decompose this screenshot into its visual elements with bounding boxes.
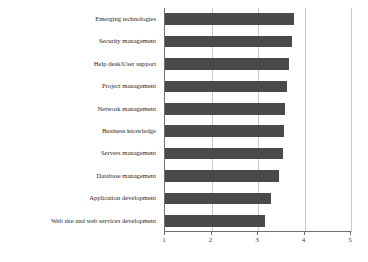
gridline <box>351 8 352 232</box>
category-label: Servers management <box>0 142 160 164</box>
bar <box>165 36 292 48</box>
x-axis-tick <box>304 231 305 235</box>
x-axis-tick-label: 5 <box>340 236 360 245</box>
bar <box>165 103 285 115</box>
x-axis-tick <box>211 231 212 235</box>
bar <box>165 13 294 25</box>
bar <box>165 148 283 160</box>
category-label: Security management <box>0 30 160 52</box>
x-axis-tick-label: 2 <box>201 236 221 245</box>
bar-chart: Emerging technologiesSecurity management… <box>0 0 368 262</box>
x-axis-tick <box>164 231 165 235</box>
category-label-column: Emerging technologiesSecurity management… <box>0 8 164 232</box>
plot-area <box>164 8 350 232</box>
x-axis-tick-label: 1 <box>154 236 174 245</box>
x-axis-tick-label: 3 <box>247 236 267 245</box>
x-axis-tick <box>350 231 351 235</box>
gridline <box>305 8 306 232</box>
x-axis-tick-label: 4 <box>294 236 314 245</box>
category-label: Business knowledge <box>0 120 160 142</box>
bar <box>165 81 287 93</box>
category-label: Project management <box>0 75 160 97</box>
bar <box>165 125 284 137</box>
category-label: Emerging technologies <box>0 8 160 30</box>
bar <box>165 193 271 205</box>
bar <box>165 58 289 70</box>
category-label: Web site and web services development <box>0 210 160 232</box>
category-label: Network management <box>0 98 160 120</box>
category-label: Application development <box>0 187 160 209</box>
category-label: Database management <box>0 165 160 187</box>
bar <box>165 215 265 227</box>
bar <box>165 170 279 182</box>
x-axis-tick <box>257 231 258 235</box>
category-label: Help desk/User support <box>0 53 160 75</box>
